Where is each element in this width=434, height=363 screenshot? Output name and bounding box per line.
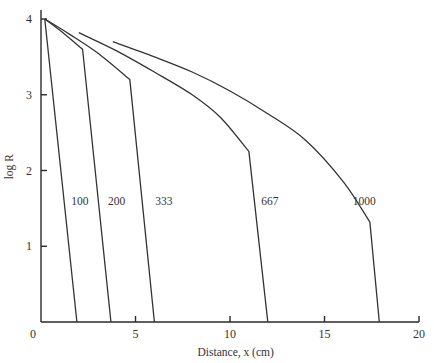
curves [45, 19, 380, 322]
x-tick-label: 15 [319, 327, 331, 341]
x-axis-title: Distance, x (cm) [198, 346, 274, 359]
curve-100 [45, 19, 77, 322]
series-labels: 1002003336671000 [71, 195, 376, 207]
axes [41, 10, 419, 322]
y-ticks: 1234 [26, 12, 47, 253]
curve-200 [45, 19, 111, 322]
y-tick-label: 1 [26, 239, 32, 253]
y-tick-label: 3 [26, 88, 32, 102]
x-tick-label: 5 [133, 327, 139, 341]
curve-label-667: 667 [261, 195, 279, 207]
x-tick-label: 20 [413, 327, 425, 341]
y-tick-label: 2 [26, 164, 32, 178]
curve-label-333: 333 [155, 195, 173, 207]
x-tick-label: 10 [224, 327, 236, 341]
y-tick-label: 4 [26, 12, 32, 26]
curve-1000 [113, 42, 379, 322]
x-tick-label: 0 [30, 327, 36, 341]
curve-label-100: 100 [71, 195, 89, 207]
x-ticks: 05101520 [30, 316, 425, 341]
y-axis-title: log R [3, 154, 16, 180]
curve-label-1000: 1000 [353, 195, 376, 207]
curve-label-200: 200 [108, 195, 126, 207]
chart: 05101520 1234 1002003336671000 Distance,… [0, 0, 434, 363]
curve-667 [79, 33, 268, 322]
